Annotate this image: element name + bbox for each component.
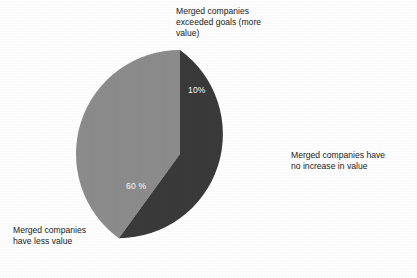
pie-chart-figure: 10% 30 % 60 % Merged companies exceeded … [0, 0, 417, 278]
slice-value-exceeded-goals: 10% [188, 85, 206, 95]
callout-label-exceeded-goals: Merged companies exceeded goals (more va… [176, 6, 301, 40]
slice-value-less-value: 60 % [126, 181, 146, 191]
slice-value-no-increase: 30 % [238, 166, 258, 176]
chart-area: 10% 30 % 60 % Merged companies exceeded … [0, 0, 417, 278]
callout-label-no-increase: Merged companies have no increase in val… [291, 150, 417, 172]
callout-label-less-value: Merged companies have less value [13, 225, 138, 247]
